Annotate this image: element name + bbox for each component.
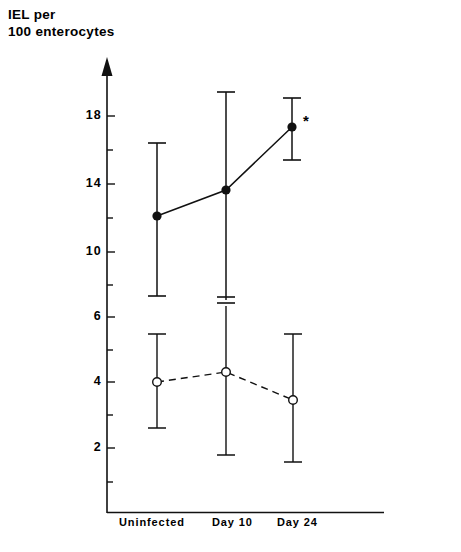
series-infected [148,92,301,303]
data-point-infected-1 [221,185,230,194]
data-point-infected-0 [152,211,161,220]
series-control [148,306,302,462]
y-axis-ticks [107,116,115,482]
data-point-control-0 [153,378,162,387]
plot-canvas [0,0,461,552]
data-point-infected-2 [287,122,296,131]
series-infected-line [157,127,292,216]
data-point-control-1 [222,368,231,377]
error-bar-infected-1 [217,92,235,303]
error-bar-control-1 [217,306,235,455]
chart-figure: IEL per 100 enterocytes 18 14 10 6 4 2 U… [0,0,461,552]
y-axis-arrowhead [102,57,113,76]
data-point-control-2 [289,396,298,405]
